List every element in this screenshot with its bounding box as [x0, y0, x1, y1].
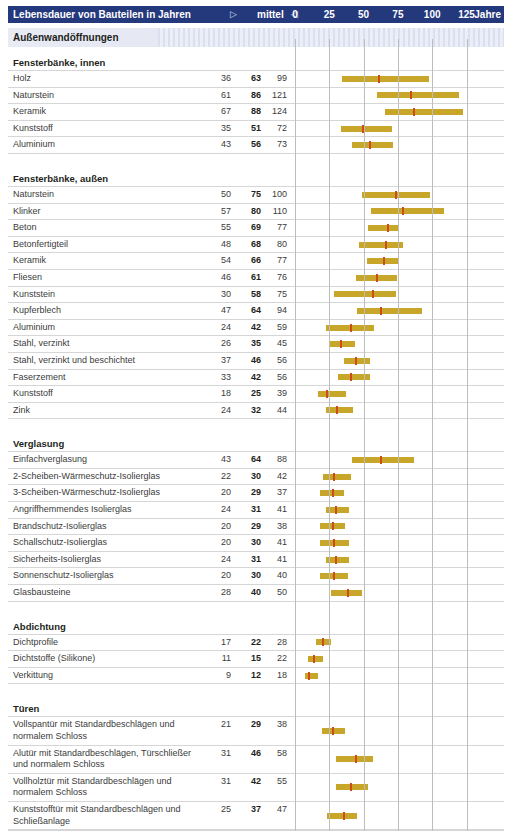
value-max: 76 — [261, 270, 293, 284]
range-bar — [326, 407, 353, 413]
range-bar-cell — [293, 635, 504, 651]
median-marker — [385, 241, 387, 249]
median-marker — [347, 589, 349, 597]
table-row: Keramik6788124 — [8, 104, 504, 121]
range-bar-cell — [293, 668, 504, 684]
range-bar-cell — [293, 71, 504, 87]
table-row: Beton556977 — [8, 220, 504, 237]
table-row: Holz366399 — [8, 70, 504, 88]
value-mittel: 46 — [231, 353, 261, 367]
value-min: 24 — [204, 502, 231, 516]
value-max: 59 — [261, 320, 293, 334]
median-marker — [336, 406, 338, 414]
value-max: 100 — [261, 187, 293, 201]
range-bar — [377, 92, 459, 98]
range-bar-cell — [293, 88, 504, 104]
range-bar — [308, 656, 323, 662]
row-label: Angriffhemmendes Isolierglas — [8, 502, 204, 518]
table-row: 3-Scheiben-Wärmeschutz-Isolierglas202937 — [8, 485, 504, 502]
value-max: 44 — [261, 403, 293, 417]
value-max: 28 — [261, 635, 293, 649]
table-row: Aluminium244259 — [8, 320, 504, 337]
row-label: Aluminium — [8, 137, 204, 153]
row-label: Alutür mit Standardbeschlägen, Türschlie… — [8, 746, 204, 773]
axis-tick-0: 0 — [282, 6, 308, 23]
value-mittel: 32 — [231, 403, 261, 417]
value-max: 18 — [261, 668, 293, 682]
range-bar-cell — [293, 336, 504, 352]
range-bar-cell — [293, 353, 504, 369]
value-max: 72 — [261, 121, 293, 135]
median-marker — [333, 572, 335, 580]
range-bar — [338, 374, 370, 380]
axis-tick-100: 100 — [419, 6, 445, 23]
range-bar-cell — [293, 370, 504, 386]
median-marker — [402, 207, 404, 215]
median-marker — [333, 473, 335, 481]
row-label: Zink — [8, 403, 204, 419]
range-bar-cell — [293, 535, 504, 551]
range-bar-cell — [293, 469, 504, 485]
row-label: Kunststein — [8, 287, 204, 303]
value-mittel: 80 — [231, 204, 261, 218]
value-mittel: 46 — [231, 746, 261, 760]
table-row: Naturstein6186121 — [8, 88, 504, 105]
value-mittel: 35 — [231, 336, 261, 350]
table-row: Kunststofftür mit Standardbeschlägen und… — [8, 802, 504, 830]
range-bar — [323, 474, 350, 480]
range-bar — [371, 208, 444, 214]
range-bar — [326, 507, 349, 513]
table-row: Dichtprofile172228 — [8, 634, 504, 652]
value-min: 20 — [204, 535, 231, 549]
value-min: 28 — [204, 585, 231, 599]
median-marker — [343, 812, 345, 820]
value-max: 77 — [261, 253, 293, 267]
row-label: Naturstein — [8, 88, 204, 104]
table-row: Vollholztür mit Standardbeschlägen und n… — [8, 774, 504, 802]
value-mittel: 86 — [231, 88, 261, 102]
median-marker — [380, 456, 382, 464]
row-label: Sicherheits-Isolierglas — [8, 552, 204, 568]
value-mittel: 31 — [231, 502, 261, 516]
value-max: 56 — [261, 370, 293, 384]
lifespan-table: Fensterbänke, innenHolz366399Naturstein6… — [8, 47, 504, 831]
value-max: 41 — [261, 552, 293, 566]
value-mittel: 30 — [231, 535, 261, 549]
value-min: 46 — [204, 270, 231, 284]
median-marker — [355, 357, 357, 365]
value-mittel: 56 — [231, 137, 261, 151]
range-bar — [352, 457, 414, 463]
table-row: Keramik546677 — [8, 253, 504, 270]
value-max: 88 — [261, 452, 293, 466]
value-min: 57 — [204, 204, 231, 218]
table-row: Schallschutz-Isolierglas203041 — [8, 535, 504, 552]
row-label: Kunststoff — [8, 386, 204, 402]
median-marker — [308, 672, 310, 680]
median-marker — [335, 556, 337, 564]
range-bar — [326, 557, 349, 563]
row-label: Fliesen — [8, 270, 204, 286]
value-mittel: 25 — [231, 386, 261, 400]
range-bar — [359, 242, 403, 248]
value-min: 35 — [204, 121, 231, 135]
value-max: 41 — [261, 502, 293, 516]
value-mittel: 58 — [231, 287, 261, 301]
value-max: 73 — [261, 137, 293, 151]
value-max: 41 — [261, 535, 293, 549]
group-gap — [8, 684, 504, 693]
value-min: 43 — [204, 137, 231, 151]
group-gap — [8, 419, 504, 428]
median-marker — [313, 655, 315, 663]
value-max: 39 — [261, 386, 293, 400]
row-label: Vollspantür mit Standardbeschlägen und n… — [8, 717, 204, 744]
value-min: 47 — [204, 303, 231, 317]
value-mittel: 29 — [231, 717, 261, 731]
triangle-right-icon: ▷ — [230, 6, 237, 23]
median-marker — [380, 307, 382, 315]
median-marker — [410, 91, 412, 99]
value-max: 47 — [261, 802, 293, 816]
value-mittel: 31 — [231, 552, 261, 566]
value-mittel: 66 — [231, 253, 261, 267]
table-row: Stahl, verzinkt und beschichtet374656 — [8, 353, 504, 370]
range-bar — [352, 142, 393, 148]
